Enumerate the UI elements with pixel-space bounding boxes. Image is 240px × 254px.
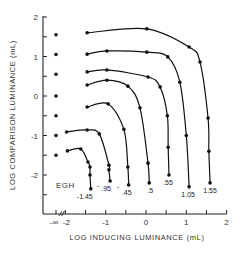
x-tick-label: -∞ bbox=[50, 218, 59, 227]
data-point bbox=[85, 52, 89, 56]
dash-mark: - bbox=[97, 182, 100, 189]
data-point bbox=[106, 102, 110, 106]
data-point bbox=[105, 49, 109, 53]
data-point bbox=[185, 134, 189, 138]
curve-label: -1.45 bbox=[77, 193, 93, 200]
data-point bbox=[126, 165, 130, 169]
data-point bbox=[107, 168, 111, 172]
data-point bbox=[107, 163, 111, 167]
x-tick-label: 1 bbox=[184, 218, 189, 227]
x-axis-title: LOG INDUCING LUMINANCE (mL) bbox=[70, 233, 205, 242]
data-point bbox=[88, 165, 92, 169]
curve-label: 1.05 bbox=[181, 191, 195, 198]
data-point bbox=[145, 27, 149, 31]
data-point bbox=[206, 116, 210, 120]
data-point bbox=[79, 147, 83, 151]
data-point bbox=[167, 173, 171, 177]
data-point bbox=[122, 127, 126, 131]
data-point bbox=[126, 84, 130, 88]
x-tick-label: 2 bbox=[224, 218, 229, 227]
curve-label: .55 bbox=[163, 179, 173, 186]
data-point bbox=[88, 173, 92, 177]
data-point bbox=[147, 181, 151, 185]
data-point bbox=[85, 83, 89, 87]
curve-label: 1.55 bbox=[203, 187, 217, 194]
y-tick-label: 0 bbox=[34, 92, 39, 101]
data-point-minus-infinity bbox=[54, 94, 58, 98]
data-point bbox=[97, 132, 101, 136]
data-point bbox=[105, 68, 109, 72]
data-point bbox=[166, 114, 170, 118]
curves bbox=[54, 27, 212, 191]
data-point-minus-infinity bbox=[54, 134, 58, 138]
curve-label: .45 bbox=[122, 189, 132, 196]
data-point-minus-infinity bbox=[54, 114, 58, 118]
x-tick-label: -2 bbox=[63, 218, 71, 227]
data-point bbox=[138, 106, 142, 110]
data-point bbox=[207, 150, 211, 154]
y-tick-label: 1 bbox=[34, 53, 39, 62]
data-point bbox=[85, 105, 89, 109]
y-axis-title: LOG COMPARISON LUMINANCE (mL) bbox=[8, 40, 17, 190]
data-point-minus-infinity bbox=[54, 72, 58, 76]
data-point bbox=[105, 78, 109, 82]
x-tick-label: 0 bbox=[144, 218, 149, 227]
data-point bbox=[145, 50, 149, 54]
data-point bbox=[85, 128, 89, 132]
data-point bbox=[86, 160, 90, 164]
data-point bbox=[158, 85, 162, 89]
y-tick-label: -1 bbox=[31, 132, 39, 141]
data-point bbox=[89, 187, 93, 191]
dash-mark: - bbox=[117, 183, 120, 190]
data-point bbox=[208, 181, 212, 185]
data-point bbox=[166, 55, 170, 59]
data-point bbox=[187, 45, 191, 49]
data-point bbox=[166, 146, 170, 150]
data-point bbox=[198, 60, 202, 64]
curve-p5 bbox=[87, 80, 149, 183]
y-tick-label: -2 bbox=[31, 171, 39, 180]
curve-p95 bbox=[67, 130, 111, 181]
data-point-minus-infinity bbox=[54, 53, 58, 57]
x-tick-label: -1 bbox=[102, 218, 110, 227]
data-point bbox=[85, 70, 89, 74]
data-point bbox=[108, 179, 112, 183]
data-point bbox=[66, 149, 70, 153]
data-point bbox=[127, 183, 131, 187]
data-point bbox=[146, 161, 150, 165]
data-point-minus-infinity bbox=[54, 153, 58, 157]
curve-label: .5 bbox=[147, 187, 153, 194]
curve-p45 bbox=[87, 103, 129, 185]
data-point bbox=[178, 80, 182, 84]
y-tick-label: 2 bbox=[34, 13, 39, 22]
curve-1p05 bbox=[87, 51, 189, 187]
data-point bbox=[146, 75, 150, 79]
data-point bbox=[85, 31, 89, 35]
chart: 210-1-2-∞-2-1012 LOG INDUCING LUMINANCE … bbox=[0, 0, 240, 254]
data-point bbox=[187, 185, 191, 189]
data-point-minus-infinity bbox=[54, 33, 58, 37]
subject-label: EGH bbox=[56, 181, 75, 190]
curve-label: .95 bbox=[101, 185, 111, 192]
data-point bbox=[65, 130, 69, 134]
